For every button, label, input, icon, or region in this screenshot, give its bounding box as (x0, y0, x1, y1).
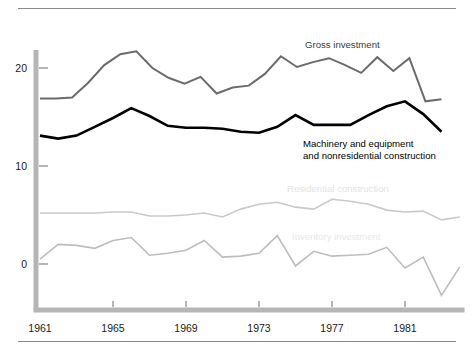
label-inventory-investment: Inventory investment (292, 231, 381, 242)
investment-chart-figure: 01020 196119651969197319771981 Gross inv… (0, 0, 474, 350)
series-annotations: Gross investment Machinery and equipment… (0, 0, 474, 350)
label-gross-investment: Gross investment (305, 39, 380, 50)
label-machinery-line1: Machinery and equipment (303, 138, 414, 149)
label-machinery-line2: and nonresidential construction (303, 150, 436, 161)
label-residential-construction: Residential construction (287, 183, 389, 194)
